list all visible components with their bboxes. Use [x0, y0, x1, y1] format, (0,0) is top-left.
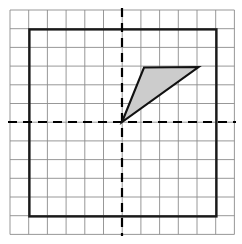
figure-container	[0, 0, 242, 244]
coordinate-grid-figure	[0, 0, 242, 244]
